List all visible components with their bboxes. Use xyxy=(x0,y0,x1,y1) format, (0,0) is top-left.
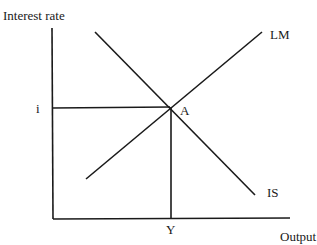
interest-rate-guide-line xyxy=(52,107,170,108)
is-curve xyxy=(95,32,255,195)
y-axis-label: Interest rate xyxy=(3,8,65,23)
y-axis xyxy=(52,28,53,219)
equilibrium-point-label: A xyxy=(180,103,190,118)
lm-curve xyxy=(86,32,262,179)
y-tick-label: Y xyxy=(166,222,176,237)
lm-label: LM xyxy=(270,27,290,42)
i-tick-label: i xyxy=(36,101,40,116)
is-label: IS xyxy=(267,185,279,200)
islm-chart: Interest rate Output LM IS A i Y xyxy=(0,0,317,245)
x-axis-label: Output xyxy=(280,229,317,244)
chart-canvas: Interest rate Output LM IS A i Y xyxy=(0,0,317,245)
